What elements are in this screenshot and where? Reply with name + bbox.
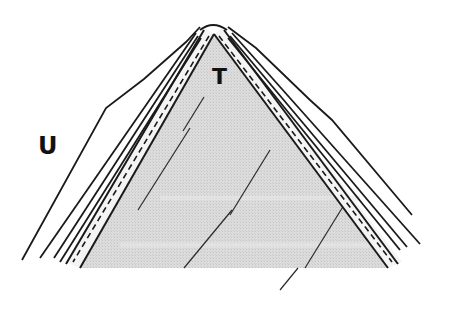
core-region [80,34,388,268]
outer-label: U [38,134,58,158]
cone-diagram [0,0,458,309]
core-label: T [212,66,227,88]
